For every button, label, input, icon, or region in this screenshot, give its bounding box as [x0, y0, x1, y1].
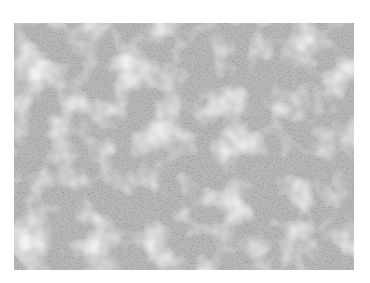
histology-micrograph — [14, 23, 354, 270]
micrograph-texture — [14, 23, 354, 270]
